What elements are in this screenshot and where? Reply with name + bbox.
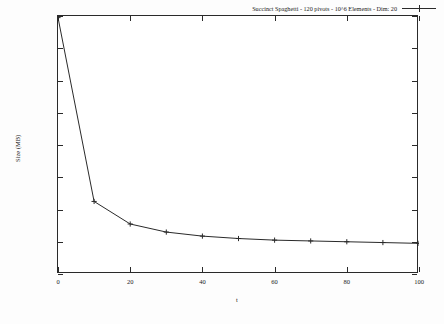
- x-tick-label: 60: [271, 278, 278, 285]
- series-markers: [58, 16, 419, 246]
- chart-legend: Succinct Spaghetti - 120 pivots - 10^6 E…: [252, 5, 436, 12]
- x-tick-label: 0: [56, 278, 59, 285]
- plot-area: 1200122012401260128013001320134013600204…: [57, 15, 418, 273]
- x-tick-label: 80: [344, 278, 351, 285]
- y-tick-right: [412, 274, 417, 275]
- x-tick-top: [419, 16, 420, 21]
- legend-entry-label: Succinct Spaghetti - 120 pivots - 10^6 E…: [252, 5, 397, 12]
- legend-line-sample-icon: [402, 5, 436, 12]
- chart-canvas: Succinct Spaghetti - 120 pivots - 10^6 E…: [0, 0, 444, 324]
- x-tick-label: 100: [414, 278, 424, 285]
- series-plot: [58, 16, 419, 274]
- x-tick-label: 40: [199, 278, 206, 285]
- x-tick-label: 20: [127, 278, 134, 285]
- y-tick: [58, 274, 63, 275]
- y-axis-title: Size (MB): [14, 135, 21, 162]
- x-axis-title: t: [236, 296, 238, 303]
- series-line-succinct-spaghetti: [58, 18, 419, 244]
- x-tick: [419, 267, 420, 272]
